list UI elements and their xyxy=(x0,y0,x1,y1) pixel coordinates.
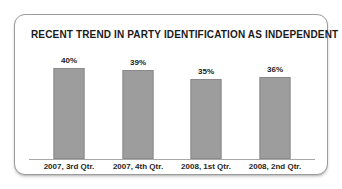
bar-group: 36% xyxy=(240,59,310,159)
bar-value-label: 40% xyxy=(61,56,77,65)
bar[interactable] xyxy=(123,70,154,159)
category-label: 2007, 3rd Qtr. xyxy=(34,162,104,171)
bar[interactable] xyxy=(260,77,291,159)
category-label: 2008, 1st Qtr. xyxy=(171,162,241,171)
category-label: 2007, 4th Qtr. xyxy=(103,162,173,171)
bar[interactable] xyxy=(54,68,85,159)
bar-value-label: 35% xyxy=(198,67,214,76)
category-label: 2008, 2nd Qtr. xyxy=(240,162,310,171)
bar-group: 40% xyxy=(34,59,104,159)
bar-value-label: 36% xyxy=(267,65,283,74)
bar-group: 39% xyxy=(103,59,173,159)
bar-value-label: 39% xyxy=(130,58,146,67)
chart-title: RECENT TREND IN PARTY IDENTIFICATION AS … xyxy=(31,29,338,40)
plot-area: 40% 39% 35% 36% xyxy=(31,59,313,159)
axis-baseline xyxy=(29,159,315,160)
category-axis: 2007, 3rd Qtr. 2007, 4th Qtr. 2008, 1st … xyxy=(31,162,313,176)
chart-card: RECENT TREND IN PARTY IDENTIFICATION AS … xyxy=(14,14,328,175)
bar-group: 35% xyxy=(171,59,241,159)
bar[interactable] xyxy=(191,79,222,159)
